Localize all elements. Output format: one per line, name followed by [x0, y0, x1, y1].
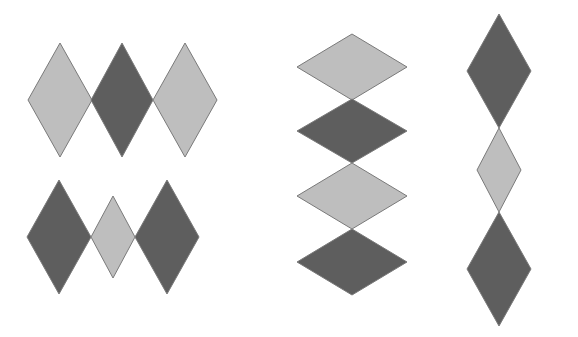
dark-diamond-shape: [297, 229, 407, 295]
vertical-stack-narrow: [467, 14, 531, 326]
dark-diamond-shape: [467, 212, 531, 326]
light-diamond-shape: [153, 43, 217, 157]
dark-diamond-shape: [91, 43, 153, 157]
horizontal-row-top: [28, 43, 217, 157]
light-diamond-shape: [477, 128, 521, 212]
dark-diamond-shape: [467, 14, 531, 128]
dark-diamond-shape: [135, 180, 199, 294]
vertical-stack-wide: [297, 34, 407, 295]
horizontal-row-bottom: [27, 180, 199, 294]
dark-diamond-shape: [27, 180, 91, 294]
light-diamond-shape: [91, 196, 135, 278]
dark-diamond-shape: [297, 99, 407, 163]
light-diamond-shape: [297, 34, 407, 100]
diamond-pattern-diagram: [0, 0, 578, 337]
light-diamond-shape: [297, 163, 407, 229]
light-diamond-shape: [28, 43, 92, 157]
